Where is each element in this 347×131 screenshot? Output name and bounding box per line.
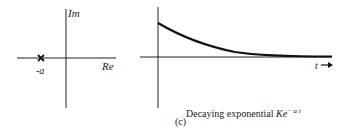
imag-axis-label: Im <box>68 8 80 19</box>
figure-caption: Decaying exponential Ke− a t <box>186 106 301 119</box>
time-axis-label: t <box>315 60 318 71</box>
time-plot <box>140 7 333 108</box>
caption-part-label: (c) <box>175 117 186 127</box>
caption-formula-exponent: − a t <box>287 107 301 115</box>
caption-formula-base: Ke <box>276 108 287 119</box>
pole-label: -a <box>36 65 44 76</box>
caption-text: Decaying exponential <box>186 108 276 119</box>
exponential-curve <box>158 23 332 57</box>
right-arrow-icon <box>321 62 333 68</box>
real-axis-label: Re <box>102 61 114 72</box>
pole-zero-plot <box>17 9 116 108</box>
